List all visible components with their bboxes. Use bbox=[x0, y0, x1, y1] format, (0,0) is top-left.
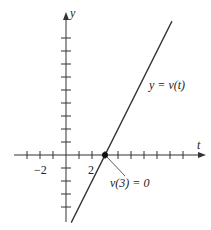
y-axis-arrow-icon bbox=[63, 12, 69, 20]
x-tick-label-neg2: −2 bbox=[34, 163, 47, 177]
graph: y t −2 2 y = v(t) v(3) = 0 bbox=[0, 0, 211, 230]
point-leader-line bbox=[106, 156, 125, 176]
zero-point-marker bbox=[102, 152, 108, 158]
x-axis-label: t bbox=[197, 138, 201, 152]
y-axis-label: y bbox=[69, 6, 76, 20]
curve-label: y = v(t) bbox=[148, 78, 185, 92]
x-tick-label-2: 2 bbox=[88, 163, 94, 177]
line-v-of-t bbox=[71, 21, 172, 223]
x-axis-arrow-icon bbox=[198, 152, 206, 158]
point-label: v(3) = 0 bbox=[110, 176, 149, 190]
